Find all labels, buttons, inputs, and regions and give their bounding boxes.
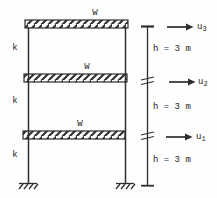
beam-floor-3 (25, 20, 128, 28)
height-label-story3: h = 3 m (153, 45, 191, 54)
displacement-label-u1: u1 (196, 133, 206, 143)
fixed-support-left (19, 184, 38, 190)
u1-arrow-icon (166, 134, 193, 141)
u2-arrow-icon (169, 79, 196, 86)
beam-floor-2 (24, 74, 127, 82)
mass-label-floor3: W (92, 9, 97, 18)
height-label-story2: h = 3 m (153, 103, 191, 112)
mass-label-floor2: W (84, 63, 89, 72)
beam-floor-1 (23, 131, 125, 139)
mass-label-floor1: W (77, 120, 82, 129)
u1-subscript: 1 (201, 135, 205, 143)
stiffness-label-story2: k (12, 97, 17, 106)
shear-frame-figure: W W W k k k h = 3 m h = 3 m h = 3 m u3 u… (0, 0, 217, 198)
stiffness-label-story3: k (12, 44, 17, 53)
u3-subscript: 3 (202, 25, 206, 33)
arrows (166, 24, 196, 141)
height-label-story1: h = 3 m (153, 156, 191, 165)
fixed-support-right (116, 184, 135, 190)
u3-arrow-icon (167, 24, 194, 31)
u2-subscript: 2 (203, 80, 207, 88)
displacement-label-u3: u3 (197, 23, 207, 33)
stiffness-label-story1: k (12, 151, 17, 160)
frame-drawing (0, 0, 217, 198)
displacement-label-u2: u2 (198, 78, 208, 88)
